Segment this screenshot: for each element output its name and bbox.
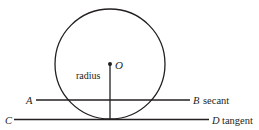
center-label: O [115,59,123,71]
tangent-label: tangent [222,115,253,126]
radius-label: radius [76,70,101,81]
point-c-label: C [5,115,13,126]
secant-label: secant [203,95,229,106]
point-a-label: A [25,95,33,106]
point-b-label: B [193,95,200,106]
circle-diagram: O radius A B secant C D tangent [0,0,259,130]
point-d-label: D [211,115,220,126]
